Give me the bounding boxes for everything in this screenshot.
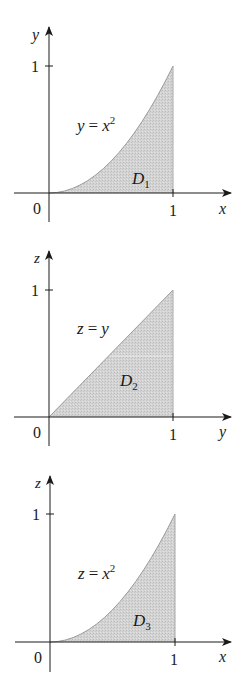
region-d1-fill xyxy=(49,66,173,193)
curve-equation-label: y=x2 xyxy=(75,114,115,135)
vertical-tick-label: 1 xyxy=(32,506,40,523)
horizontal-axis-label: y xyxy=(217,423,227,441)
vertical-tick-label: 1 xyxy=(31,58,39,75)
vertical-tick-label: 1 xyxy=(31,282,39,299)
vertical-axis-label: z xyxy=(33,250,40,266)
vertical-axis-label: y xyxy=(30,26,40,44)
horizontal-tick-label: 1 xyxy=(170,651,178,668)
projection-diagram: y 1 0 1 x y=x2 D1 z 1 0 1 y z=y D2 z 1 xyxy=(0,0,250,681)
origin-label: 0 xyxy=(33,200,41,217)
panel-d3: z 1 0 1 x z=x2 D3 xyxy=(15,475,231,672)
horizontal-axis-label: x xyxy=(218,200,226,217)
horizontal-tick-label: 1 xyxy=(169,426,177,443)
region-d3-fill xyxy=(50,514,175,642)
curve-equation-label: z=y xyxy=(76,319,109,338)
horizontal-tick-label: 1 xyxy=(169,202,177,219)
panel-d2: z 1 0 1 y z=y D2 xyxy=(14,250,231,446)
origin-label: 0 xyxy=(33,424,41,441)
horizontal-axis-label: x xyxy=(218,648,226,665)
vertical-axis-label: z xyxy=(34,475,41,491)
curve-equation-label: z=x2 xyxy=(77,562,115,583)
panel-d1: y 1 0 1 x y=x2 D1 xyxy=(14,26,231,222)
origin-label: 0 xyxy=(34,649,42,666)
